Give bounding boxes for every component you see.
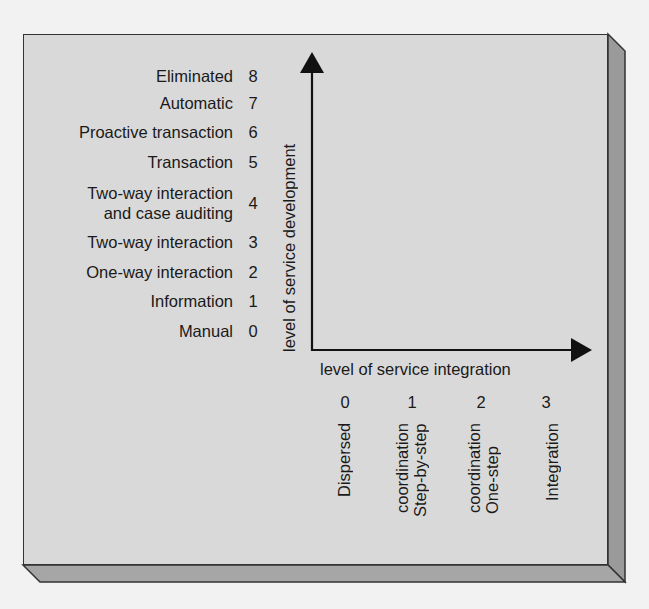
- y-level-label-4-line2: and case auditing: [104, 204, 233, 222]
- x-axis-title: level of service integration: [320, 360, 511, 379]
- y-level-number-8: 8: [247, 67, 259, 85]
- y-axis-title: level of service development: [280, 80, 299, 352]
- x-axis-arrow: [311, 338, 592, 362]
- y-level-number-4: 4: [247, 194, 259, 212]
- x-level-number-0: 0: [335, 393, 355, 411]
- y-level-label-0: Manual: [179, 322, 233, 340]
- y-level-number-1: 1: [247, 292, 259, 310]
- x-level-label-0: Dispersed: [336, 423, 353, 517]
- y-level-label-2: One-way interaction: [86, 263, 233, 281]
- x-level-label-1-line2: coordination: [394, 423, 411, 537]
- y-level-label-4-line1: Two-way interaction: [87, 184, 233, 202]
- y-level-number-0: 0: [247, 322, 259, 340]
- y-level-label-5: Transaction: [147, 153, 233, 171]
- y-level-number-7: 7: [247, 94, 259, 112]
- y-level-label-6: Proactive transaction: [79, 123, 233, 141]
- x-level-label-2-line1: One-step: [484, 423, 501, 537]
- diagram-canvas: Eliminated 8 Automatic 7 Proactive trans…: [0, 0, 649, 609]
- x-level-number-1: 1: [402, 393, 422, 411]
- y-level-number-6: 6: [247, 123, 259, 141]
- x-level-label-1-line1: Step-by-step: [412, 423, 429, 537]
- y-level-label-3: Two-way interaction: [87, 233, 233, 251]
- x-level-label-2-line2: coordination: [466, 423, 483, 537]
- y-level-label-1: Information: [150, 292, 233, 310]
- y-axis-arrow: [300, 52, 324, 351]
- x-level-label-3: Integration: [544, 423, 561, 523]
- x-level-number-3: 3: [536, 393, 556, 411]
- y-level-number-3: 3: [247, 233, 259, 251]
- x-level-number-2: 2: [471, 393, 491, 411]
- y-level-label-7: Automatic: [160, 94, 233, 112]
- y-level-number-5: 5: [247, 153, 259, 171]
- y-level-label-8: Eliminated: [156, 67, 233, 85]
- y-level-number-2: 2: [247, 263, 259, 281]
